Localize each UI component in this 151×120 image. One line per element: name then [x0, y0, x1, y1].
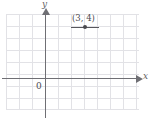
- x-axis-arrow-icon: [136, 75, 143, 83]
- coordinate-plane-figure: x y 0 (3, 4): [0, 0, 151, 120]
- y-axis-arrow-icon: [42, 8, 50, 15]
- y-axis-label: y: [42, 0, 47, 9]
- gridline-horizontal: [6, 109, 139, 110]
- gridline-horizontal: [6, 74, 139, 75]
- gridline-horizontal: [6, 38, 139, 39]
- origin-label: 0: [36, 82, 42, 91]
- x-axis-line: [2, 78, 140, 79]
- x-axis-label: x: [143, 72, 148, 81]
- y-axis-line: [45, 10, 46, 118]
- gridline-horizontal: [6, 86, 139, 87]
- gridline-horizontal: [6, 62, 139, 63]
- point-coordinate-label: (3, 4): [72, 14, 95, 23]
- gridline-horizontal: [6, 50, 139, 51]
- point-marker-dot: [83, 25, 87, 29]
- grid-background: [6, 14, 139, 110]
- gridline-horizontal: [6, 98, 139, 99]
